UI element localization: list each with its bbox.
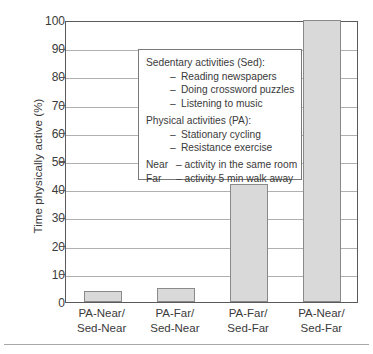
bar	[84, 291, 122, 302]
legend-sedentary-heading: Sedentary activities (Sed):	[146, 56, 294, 70]
legend-item-label: Resistance exercise	[181, 142, 272, 153]
bottom-divider	[4, 344, 369, 345]
x-axis-tick-label: PA-Near/Sed-Far	[285, 306, 358, 348]
legend-box: Sedentary activities (Sed): –Reading new…	[138, 49, 302, 180]
legend-item-label: Reading newspapers	[181, 71, 277, 82]
legend-physical-heading: Physical activities (PA):	[146, 114, 294, 128]
legend-dash-icon: –	[170, 97, 181, 111]
x-axis-tick-label: PA-Far/Sed-Far	[212, 306, 285, 348]
legend-item-label: Listening to music	[181, 98, 263, 109]
x-axis-tick-label-line2: Sed-Far	[285, 321, 358, 336]
bar	[157, 288, 195, 302]
legend-definition-term: Near	[146, 158, 176, 172]
legend-definitions: Near– activity in the same roomFar– acti…	[146, 158, 294, 185]
bar	[303, 20, 341, 302]
plot-area: Sedentary activities (Sed): –Reading new…	[65, 21, 358, 303]
legend-dash-icon: –	[170, 141, 181, 155]
legend-item-label: Doing crossword puzzles	[181, 84, 294, 95]
legend-sedentary-items: –Reading newspapers–Doing crossword puzz…	[146, 70, 294, 111]
x-axis-tick-label: PA-Near/Sed-Near	[65, 306, 138, 348]
legend-dash-icon: –	[170, 128, 181, 142]
legend-definition-row: Far– activity 5 min walk away	[146, 172, 294, 186]
legend-item: –Listening to music	[146, 97, 294, 111]
legend-dash-icon: –	[170, 83, 181, 97]
x-axis-label-group: PA-Near/Sed-NearPA-Far/Sed-NearPA-Far/Se…	[65, 306, 358, 348]
y-axis-tick-label: 10	[5, 268, 65, 282]
y-axis-tick-label: 80	[5, 70, 65, 84]
legend-dash-icon: –	[170, 70, 181, 84]
y-axis-tick-label: 50	[5, 155, 65, 169]
y-axis-tick-label: 0	[5, 296, 65, 310]
legend-definition-row: Near– activity in the same room	[146, 158, 294, 172]
x-axis-tick-label-line2: Sed-Near	[65, 321, 138, 336]
legend-physical-items: –Stationary cycling–Resistance exercise	[146, 128, 294, 155]
y-axis-tick-label: 90	[5, 42, 65, 56]
x-axis-tick-label-line2: Sed-Near	[138, 321, 211, 336]
bar	[230, 184, 268, 302]
legend-item: –Resistance exercise	[146, 141, 294, 155]
x-axis-tick-label-line1: PA-Near/	[65, 306, 138, 321]
legend-definition-text: – activity in the same room	[176, 158, 297, 172]
y-axis-tick-label: 60	[5, 127, 65, 141]
y-axis-tick-label: 40	[5, 183, 65, 197]
legend-definition-text: – activity 5 min walk away	[176, 172, 293, 186]
y-axis-tick-label: 30	[5, 211, 65, 225]
legend-item: –Doing crossword puzzles	[146, 83, 294, 97]
x-axis-tick-label-line2: Sed-Far	[212, 321, 285, 336]
x-axis-tick-label-line1: PA-Far/	[212, 306, 285, 321]
bar-chart-figure: Time physically active (%) 1009080706050…	[0, 0, 373, 354]
y-axis-tick-label: 100	[5, 14, 65, 28]
legend-item: –Reading newspapers	[146, 70, 294, 84]
y-axis-tick-label: 70	[5, 99, 65, 113]
x-axis-tick-label-line1: PA-Near/	[285, 306, 358, 321]
x-axis-tick-label-line1: PA-Far/	[138, 306, 211, 321]
legend-item: –Stationary cycling	[146, 128, 294, 142]
legend-definition-term: Far	[146, 172, 176, 186]
y-axis-tick-label: 20	[5, 240, 65, 254]
legend-item-label: Stationary cycling	[181, 129, 261, 140]
x-axis-tick-label: PA-Far/Sed-Near	[138, 306, 211, 348]
y-axis-tick-group: 1009080706050403020100	[0, 0, 65, 354]
